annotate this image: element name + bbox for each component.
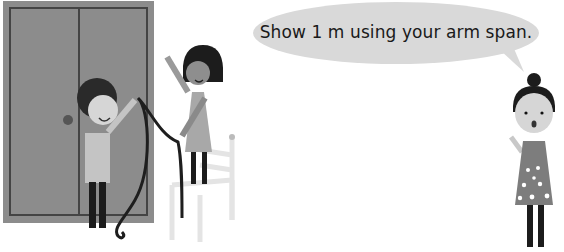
wardrobe <box>3 1 154 223</box>
illustration: Show 1 m using your arm span. <box>0 0 564 252</box>
girl <box>167 45 223 184</box>
teacher <box>511 73 555 247</box>
speech-bubble-text: Show 1 m using your arm span. <box>258 22 534 42</box>
